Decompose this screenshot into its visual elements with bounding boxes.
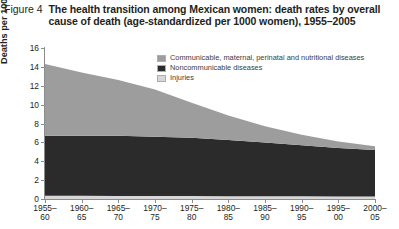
y-tick-mark [41,161,45,162]
x-tick-label: 1975–80 [180,204,203,223]
figure-container: Figure 4 The health transition among Mex… [0,0,399,229]
y-tick-label: 10 [30,100,39,108]
legend-swatch-communicable [157,55,166,62]
y-tick-label: 2 [34,176,39,184]
y-tick-label: 16 [30,44,39,52]
x-tick-label: 1965–70 [107,204,130,223]
figure-caption: Figure 4 The health transition among Mex… [4,3,396,27]
legend-item-injuries: Injuries [157,74,364,83]
x-tick-label-line: 70 [107,213,130,222]
x-tick-label: 1970–75 [143,204,166,223]
y-tick-mark [41,105,45,106]
x-tick-label: 2000–05 [363,204,386,223]
legend-label-communicable: Communicable, maternal, perinatal and nu… [170,54,364,62]
chart-legend: Communicable, maternal, perinatal and nu… [157,54,364,84]
y-axis-title: Deaths per 1000 women [0,0,9,64]
legend-label-injuries: Injuries [170,74,194,82]
x-tick-label-line: 75 [143,213,166,222]
y-tick-mark [41,67,45,68]
x-axis-line [44,199,376,200]
x-tick-label: 1985–90 [253,204,276,223]
legend-swatch-noncommunicable [157,65,166,72]
y-tick-label: 4 [34,157,39,165]
x-tick-label-line: 60 [33,213,56,222]
y-tick-label: 14 [30,63,39,71]
x-tick-label: 1980–85 [217,204,240,223]
y-tick-mark [41,86,45,87]
legend-item-noncommunicable: Noncommunicable diseases [157,64,364,73]
x-tick-label-line: 90 [253,213,276,222]
x-tick-label: 1990–95 [290,204,313,223]
x-tick-label: 1960–65 [70,204,93,223]
legend-item-communicable: Communicable, maternal, perinatal and nu… [157,54,364,63]
y-tick-label: 8 [34,119,39,127]
y-tick-label: 12 [30,82,39,90]
y-tick-mark [41,180,45,181]
x-tick-label-line: 05 [363,213,386,222]
y-tick-label: 0 [34,195,39,203]
y-tick-label: 6 [34,138,39,146]
x-tick-label-line: 85 [217,213,240,222]
figure-number-label: Figure 4 [4,3,49,27]
legend-label-noncommunicable: Noncommunicable diseases [170,64,262,72]
y-tick-mark [41,124,45,125]
x-tick-label: 1995–00 [327,204,350,223]
x-tick-label-line: 00 [327,213,350,222]
x-tick-label-line: 80 [180,213,203,222]
legend-swatch-injuries [157,75,166,82]
y-tick-mark [41,142,45,143]
figure-title: The health transition among Mexican wome… [49,3,396,27]
y-tick-mark [41,48,45,49]
x-tick-label-line: 95 [290,213,313,222]
x-tick-label-line: 65 [70,213,93,222]
x-tick-label: 1955–60 [33,204,56,223]
